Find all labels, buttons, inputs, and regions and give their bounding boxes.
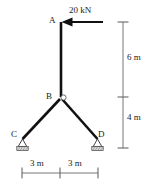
figure-canvas: A B C D 20 kN 6 m 4 m 3 m 3 m <box>0 0 147 184</box>
load-arrow-20kn <box>62 18 104 27</box>
joint-label-d: D <box>98 130 105 139</box>
dimension-label-3m-right: 3 m <box>68 159 82 168</box>
horizontal-dimension-line <box>22 168 98 179</box>
truss-diagram-svg <box>0 0 147 184</box>
support-d <box>92 139 103 151</box>
load-arrow-head <box>62 18 73 27</box>
dimension-label-6m: 6 m <box>127 53 141 62</box>
joint-label-c: C <box>11 130 17 139</box>
structure-members <box>23 22 98 139</box>
support-c <box>17 139 28 151</box>
member-BD <box>62 99 98 139</box>
dimension-label-3m-left: 3 m <box>30 159 44 168</box>
joint-label-a: A <box>49 16 56 25</box>
support-d-triangle <box>93 139 102 147</box>
joint-marker-b <box>61 95 66 100</box>
dimension-label-4m: 4 m <box>127 113 141 122</box>
member-BC <box>23 99 61 139</box>
joint-label-b: B <box>46 92 52 101</box>
vertical-dimension-line <box>118 22 129 148</box>
load-label: 20 kN <box>69 6 91 15</box>
support-c-triangle <box>18 139 27 147</box>
